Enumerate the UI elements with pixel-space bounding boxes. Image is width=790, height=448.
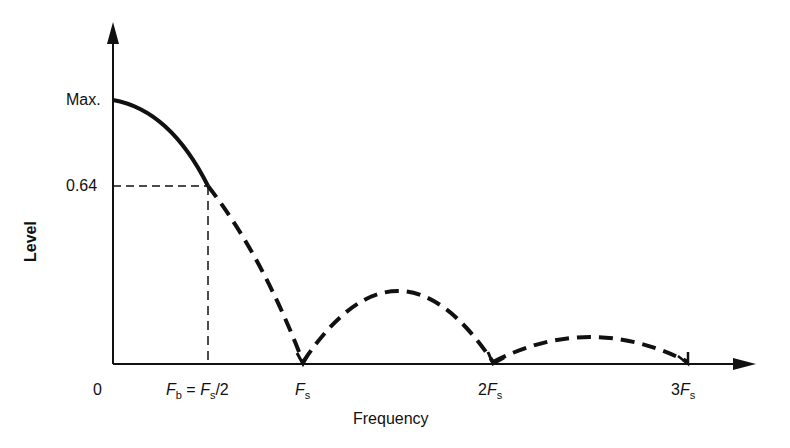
fs-symbol: F (200, 381, 210, 398)
second-lobe-dashed (303, 291, 493, 362)
two-prefix: 2 (478, 381, 487, 398)
y-tick-0.64: 0.64 (66, 177, 97, 195)
x-tick-origin: 0 (93, 381, 102, 399)
main-lobe-solid (113, 100, 208, 186)
fs-symbol: F (295, 381, 305, 398)
fs-symbol: F (680, 381, 690, 398)
fs-subscript: s (690, 389, 696, 401)
fs-symbol: F (487, 381, 497, 398)
x-axis-label: Frequency (353, 410, 429, 428)
x-tick-fb: Fb = Fs/2 (166, 381, 229, 399)
fs-subscript: s (210, 389, 216, 401)
fb-equals: = (182, 381, 200, 398)
fb-symbol: F (166, 381, 176, 398)
main-lobe-dashed (208, 186, 303, 362)
fs-half: /2 (215, 381, 228, 398)
x-tick-3fs: 3Fs (671, 381, 695, 399)
x-tick-fs: Fs (295, 381, 310, 399)
fs-subscript: s (497, 389, 503, 401)
y-axis-arrow-icon (107, 22, 119, 44)
three-prefix: 3 (671, 381, 680, 398)
x-tick-2fs: 2Fs (478, 381, 502, 399)
y-axis-label: Level (22, 221, 40, 262)
y-tick-max: Max. (66, 91, 101, 109)
x-axis-arrow-icon (733, 358, 756, 370)
fb-subscript: b (176, 389, 182, 401)
null-arrow-2fs-icon (488, 352, 504, 364)
null-arrow-3fs-icon (678, 352, 688, 364)
fs-subscript: s (305, 389, 311, 401)
third-lobe-dashed (493, 337, 688, 362)
